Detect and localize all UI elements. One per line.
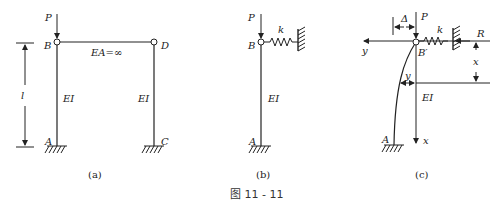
left-column-label: EI <box>62 93 75 104</box>
panel-c: P Δ y x B′ k R <box>361 11 490 180</box>
caption-c: (c) <box>415 169 429 180</box>
caption-b: (b) <box>256 169 270 180</box>
node-b-label: B <box>43 40 51 51</box>
fixed-support-a-icon <box>45 146 67 153</box>
right-column-label: EI <box>137 93 150 104</box>
node-a-label: A <box>44 136 52 147</box>
figure-title: 图 11 - 11 <box>230 188 283 201</box>
column-label: EI <box>421 92 434 103</box>
fixed-support-c-icon <box>142 146 164 153</box>
beam-label: EA=∞ <box>90 47 122 58</box>
node-b-label: B <box>247 40 255 51</box>
x-dimension-label: x <box>473 56 479 67</box>
hinge-b-icon <box>54 39 60 45</box>
deflected-column <box>394 42 416 145</box>
displacement-label: Δ <box>400 13 408 24</box>
figure-canvas: P EA=∞ B D EI EI A <box>0 0 500 210</box>
panel-b: P B k EI A (b) 图 11 - 11 <box>230 12 305 201</box>
length-dimension <box>16 43 34 147</box>
panel-a: P EA=∞ B D EI EI A <box>16 12 169 180</box>
y-axis-label: y <box>361 45 368 56</box>
column-label: EI <box>267 93 280 104</box>
hinge-b-icon <box>258 39 264 45</box>
length-label: l <box>21 90 24 101</box>
spring-icon <box>264 38 298 46</box>
node-d-label: D <box>160 40 169 51</box>
load-label: P <box>44 12 52 23</box>
node-b-label: B′ <box>417 47 428 58</box>
x-axis-label: x <box>423 135 429 146</box>
caption-a: (a) <box>88 169 102 180</box>
spring-icon <box>419 37 448 45</box>
deflection-label: y <box>404 70 411 81</box>
node-a-label: A <box>381 134 389 145</box>
reaction-label: R <box>476 28 485 39</box>
spring-label: k <box>437 24 443 35</box>
wall-support-icon <box>453 26 460 50</box>
fixed-support-a-icon <box>249 146 271 153</box>
fixed-support-a-icon <box>382 145 404 152</box>
node-a-label: A <box>248 136 256 147</box>
hinge-b-icon <box>413 39 419 45</box>
hinge-d-icon <box>151 39 157 45</box>
wall-support-icon <box>298 27 305 51</box>
load-label: P <box>420 11 428 22</box>
load-label: P <box>247 12 255 23</box>
spring-label: k <box>278 24 284 35</box>
node-c-label: C <box>161 136 169 147</box>
